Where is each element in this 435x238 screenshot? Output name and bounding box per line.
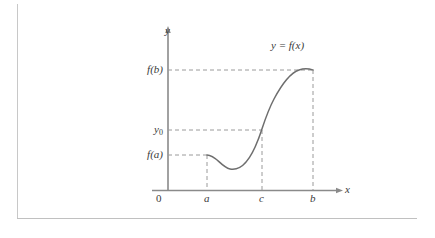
function-curve [207,69,313,170]
y0-subscript: 0 [159,128,163,137]
x-axis-label: x [345,184,350,195]
origin-label: 0 [156,193,162,204]
axis-tick-label-fb: f(b) [147,64,163,75]
axis-tick-label-fa: f(a) [147,149,163,160]
curve-equation-label: y = f(x) [271,40,304,51]
y-axis-label: y [165,25,170,36]
graph-canvas [0,0,435,238]
x-axis-arrowhead [336,188,343,194]
figure-page: f(b) y0 f(a) 0 a c b x y y = f(x) [0,0,435,238]
axis-tick-label-y0: y0 [154,124,163,137]
axis-tick-label-c: c [259,193,264,204]
axis-tick-label-a: a [204,193,210,204]
axis-tick-label-b: b [310,193,316,204]
